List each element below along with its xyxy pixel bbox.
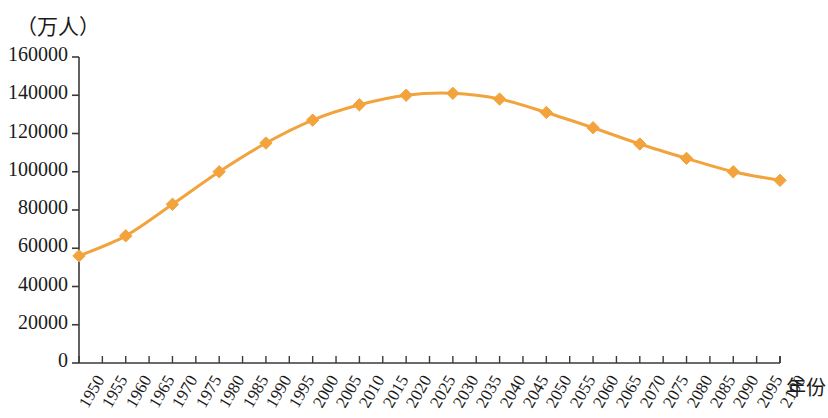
y-axis-tick-label: 0	[58, 349, 68, 372]
data-series-group	[73, 87, 786, 262]
y-axis-tick-label: 40000	[18, 273, 68, 296]
data-point-marker	[680, 152, 692, 164]
y-axis-tick-label: 60000	[18, 234, 68, 257]
data-point-marker	[774, 174, 786, 186]
y-axis-tick-label: 160000	[8, 43, 68, 66]
y-axis-tick-label: 20000	[18, 311, 68, 334]
data-point-marker	[447, 87, 459, 99]
y-axis-tick-label: 100000	[8, 158, 68, 181]
series-line-0	[79, 93, 780, 256]
data-point-marker	[634, 138, 646, 150]
chart-plot-area	[0, 0, 828, 418]
data-point-marker	[353, 99, 365, 111]
x-axis-title: 年份	[786, 372, 826, 401]
data-point-marker	[73, 250, 85, 262]
data-point-marker	[400, 89, 412, 101]
data-point-marker	[260, 137, 272, 149]
population-projection-chart: （万人） 02000040000600008000010000012000014…	[0, 0, 828, 418]
data-point-marker	[306, 114, 318, 126]
y-axis-tick-label: 80000	[18, 196, 68, 219]
data-point-marker	[493, 93, 505, 105]
data-point-marker	[540, 106, 552, 118]
y-axis-tick-label: 120000	[8, 120, 68, 143]
data-point-marker	[587, 122, 599, 134]
axes-group	[72, 57, 780, 363]
data-point-marker	[727, 166, 739, 178]
data-point-marker	[120, 230, 132, 242]
y-axis-tick-label: 140000	[8, 81, 68, 104]
